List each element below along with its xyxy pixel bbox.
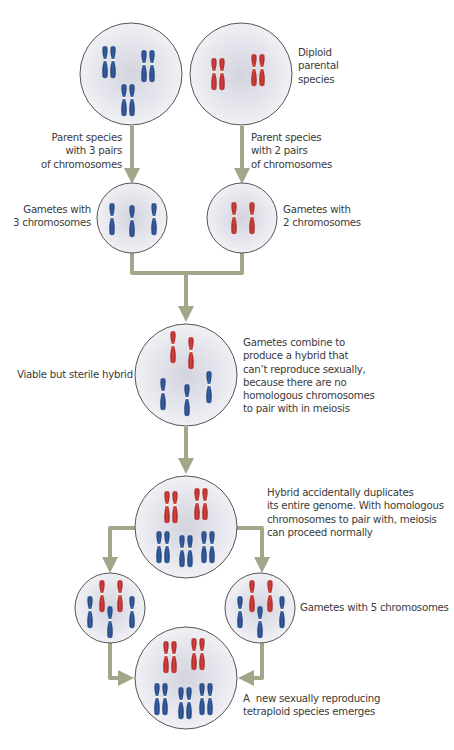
label-line: Gametes combine to bbox=[243, 336, 375, 349]
arrow-duplicate-to-left-gamete bbox=[110, 528, 136, 565]
label-gametes-5: Gametes with 5 chromosomes bbox=[300, 601, 449, 614]
label-parent-b: Parent species with 2 pairs of chromosom… bbox=[251, 131, 332, 171]
label-line: Gametes with bbox=[13, 203, 91, 216]
label-diploid-parental: Diploid parental species bbox=[298, 46, 338, 86]
arrow-right-gamete-to-tetraploid bbox=[246, 643, 262, 678]
cell-tetraploid bbox=[135, 627, 237, 729]
label-line: of chromosomes bbox=[251, 158, 332, 171]
cell-gamete-b bbox=[207, 183, 277, 253]
label-line: 3 chromosomes bbox=[13, 216, 91, 229]
label-line: of chromosomes bbox=[41, 158, 122, 171]
label-line: parental bbox=[298, 59, 338, 72]
label-line: Parent species bbox=[251, 131, 332, 144]
label-line: can’t reproduce sexually, bbox=[243, 363, 375, 376]
label-parent-a: Parent species with 3 pairs of chromosom… bbox=[41, 131, 122, 171]
label-line: Hybrid accidentally duplicates bbox=[267, 486, 444, 499]
label-new-species: A new sexually reproducing tetraploid sp… bbox=[243, 692, 380, 719]
label-sterile-hybrid: Viable but sterile hybrid bbox=[17, 368, 133, 381]
label-line: Gametes with bbox=[283, 203, 361, 216]
label-line: with 3 pairs bbox=[41, 144, 122, 157]
label-line: A new sexually reproducing bbox=[243, 692, 380, 705]
cell-duplicated-hybrid bbox=[135, 476, 237, 578]
label-gametes-a: Gametes with 3 chromosomes bbox=[13, 203, 91, 230]
label-gametes-b: Gametes with 2 chromosomes bbox=[283, 203, 361, 230]
label-line: Parent species bbox=[41, 131, 122, 144]
label-gametes-combine: Gametes combine to produce a hybrid that… bbox=[243, 336, 375, 416]
label-line: homologous chromosomes bbox=[243, 389, 375, 402]
label-line: species bbox=[298, 73, 338, 86]
label-line: chromosomes to pair with, meiosis bbox=[267, 513, 444, 526]
cell-parent-a bbox=[80, 23, 182, 125]
cell-gamete-left bbox=[75, 573, 145, 643]
arrow-duplicate-to-right-gamete bbox=[236, 528, 262, 565]
label-line: Diploid bbox=[298, 46, 338, 59]
cell-gamete-right bbox=[225, 573, 295, 643]
arrow-left-gamete-to-tetraploid bbox=[110, 643, 126, 678]
label-line: produce a hybrid that bbox=[243, 349, 375, 362]
label-line: Gametes with 5 chromosomes bbox=[300, 601, 449, 614]
label-line: with 2 pairs bbox=[251, 144, 332, 157]
cell-parent-b bbox=[190, 23, 292, 125]
label-line: because there are no bbox=[243, 376, 375, 389]
label-line: tetraploid species emerges bbox=[243, 705, 380, 718]
cell-sterile-hybrid bbox=[135, 324, 237, 426]
label-duplicates-genome: Hybrid accidentally duplicates its entir… bbox=[267, 486, 444, 539]
label-line: 2 chromosomes bbox=[283, 216, 361, 229]
cell-gamete-a bbox=[97, 183, 167, 253]
label-line: Viable but sterile hybrid bbox=[17, 368, 133, 381]
label-line: can proceed normally bbox=[267, 526, 444, 539]
arrow-gametes-combine bbox=[132, 253, 242, 314]
label-line: to pair with in meiosis bbox=[243, 402, 375, 415]
label-line: its entire genome. With homologous bbox=[267, 499, 444, 512]
